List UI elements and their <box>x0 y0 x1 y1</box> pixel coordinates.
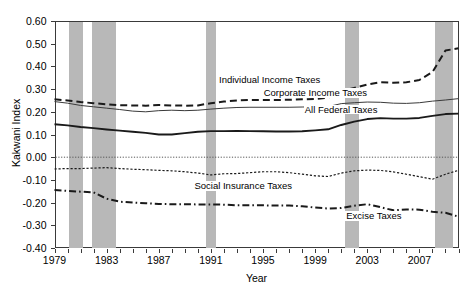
y-tick-label: -0.10 <box>7 175 47 186</box>
y-tick-mark <box>51 203 55 204</box>
y-tick-mark <box>51 112 55 113</box>
x-tick-mark <box>172 249 173 253</box>
x-tick-mark <box>380 249 381 253</box>
x-tick-mark <box>120 249 121 253</box>
x-tick-mark <box>68 249 69 253</box>
y-axis-title: Kakwani Index <box>10 98 22 166</box>
x-tick-mark <box>445 249 446 253</box>
x-tick-mark <box>367 249 368 253</box>
x-tick-mark <box>341 249 342 253</box>
x-tick-mark <box>328 249 329 253</box>
y-tick-label: -0.30 <box>7 220 47 231</box>
y-tick-label: -0.40 <box>7 243 47 254</box>
y-tick-label: 0.40 <box>7 61 47 72</box>
series-label-social-insurance-taxes: Social Insurance Taxes <box>193 181 293 191</box>
series-line-social-insurance-taxes <box>55 168 459 180</box>
x-tick-label: 2007 <box>399 255 439 266</box>
x-tick-mark <box>302 249 303 253</box>
series-label-corporate-income-taxes: Corporate Income Taxes <box>263 88 368 98</box>
y-tick-mark <box>51 66 55 67</box>
series-line-all-federal-taxes <box>55 114 459 135</box>
x-tick-mark <box>94 249 95 253</box>
x-tick-mark <box>107 249 108 253</box>
series-label-individual-income-taxes: Individual Income Taxes <box>218 75 321 85</box>
x-tick-mark <box>146 249 147 253</box>
x-tick-mark <box>198 249 199 253</box>
kakwani-index-chart: 0.600.500.400.300.200.100.00-0.10-0.20-0… <box>0 0 474 297</box>
x-tick-mark <box>250 249 251 253</box>
y-tick-mark <box>51 157 55 158</box>
x-tick-mark <box>81 249 82 253</box>
x-tick-label: 1991 <box>191 255 231 266</box>
y-tick-mark <box>51 225 55 226</box>
x-tick-mark <box>432 249 433 253</box>
x-tick-mark <box>55 249 56 253</box>
x-tick-label: 1979 <box>35 255 75 266</box>
x-tick-mark <box>315 249 316 253</box>
x-axis-title: Year <box>227 272 287 284</box>
x-tick-label: 1999 <box>295 255 335 266</box>
x-tick-mark <box>419 249 420 253</box>
x-tick-mark <box>406 249 407 253</box>
y-tick-label: -0.20 <box>7 198 47 209</box>
series-label-all-federal-taxes: All Federal Taxes <box>304 105 379 115</box>
y-tick-mark <box>51 180 55 181</box>
y-tick-mark <box>51 89 55 90</box>
x-tick-mark <box>289 249 290 253</box>
series-label-excise-taxes: Excise Taxes <box>345 211 402 221</box>
x-tick-mark <box>276 249 277 253</box>
x-tick-mark <box>185 249 186 253</box>
x-tick-mark <box>211 249 212 253</box>
x-tick-mark <box>263 249 264 253</box>
x-tick-mark <box>224 249 225 253</box>
x-tick-label: 1987 <box>139 255 179 266</box>
x-tick-mark <box>237 249 238 253</box>
x-tick-mark <box>159 249 160 253</box>
x-tick-label: 1995 <box>243 255 283 266</box>
x-tick-mark <box>133 249 134 253</box>
y-tick-mark <box>51 135 55 136</box>
y-tick-label: 0.60 <box>7 16 47 27</box>
y-tick-label: 0.30 <box>7 84 47 95</box>
x-tick-label: 2003 <box>347 255 387 266</box>
x-tick-mark <box>459 249 460 253</box>
x-tick-mark <box>393 249 394 253</box>
x-tick-label: 1983 <box>87 255 127 266</box>
y-tick-mark <box>51 44 55 45</box>
x-tick-mark <box>354 249 355 253</box>
y-tick-mark <box>51 21 55 22</box>
y-tick-label: 0.50 <box>7 39 47 50</box>
